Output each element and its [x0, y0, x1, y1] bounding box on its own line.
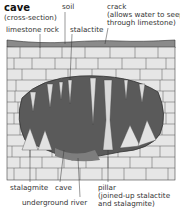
- cave-illustration: [0, 0, 180, 211]
